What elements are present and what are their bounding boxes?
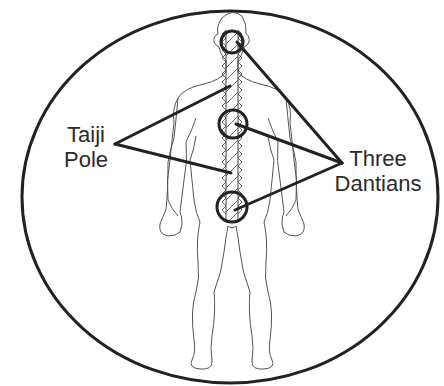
right-inner-arm <box>268 136 274 200</box>
taiji-pole-label-line2: Pole <box>56 147 116 172</box>
three-dantians-label: Three Dantians <box>333 146 423 196</box>
right-leg-outline <box>236 222 273 369</box>
frame-ellipse <box>22 11 438 383</box>
three-dantians-label-line2: Dantians <box>333 171 423 196</box>
hips-outline <box>194 200 270 222</box>
diagram-canvas: Taiji Pole Three Dantians <box>0 0 444 386</box>
left-leg-outline <box>191 222 228 369</box>
taiji-pole-label-line1: Taiji <box>56 122 116 147</box>
left-inner-arm <box>190 136 196 200</box>
middle-dantian-circle <box>219 110 247 138</box>
three-dantians-label-line1: Three <box>333 146 423 171</box>
crotch-outline <box>228 226 236 228</box>
taiji-pole-label: Taiji Pole <box>56 122 116 172</box>
